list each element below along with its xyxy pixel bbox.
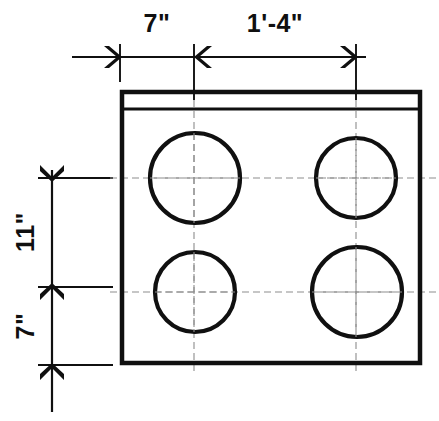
technical-drawing-canvas: 7" 1'-4" 11" 7" [0,0,439,421]
canvas-background [0,0,439,421]
dimension-label-1ft4in-horizontal: 1'-4" [247,9,303,37]
drawing-svg: 7" 1'-4" 11" 7" [0,0,439,421]
dimension-label-7in-vertical: 7" [11,313,39,340]
dimension-label-11in-vertical: 11" [11,212,39,252]
dimension-label-7in-horizontal: 7" [144,9,171,37]
